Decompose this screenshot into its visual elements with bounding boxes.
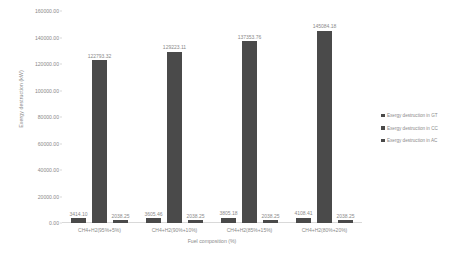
legend-swatch-icon: [381, 139, 385, 143]
bar[interactable]: [263, 220, 278, 223]
y-axis-tick-label: 140000.00: [35, 35, 59, 41]
bar[interactable]: [113, 220, 128, 223]
bar-group-bars: 4108.41145084.182038.25: [287, 11, 362, 223]
legend-swatch-icon: [381, 114, 385, 118]
chart-legend: Exergy destruction in GTExergy destructi…: [381, 113, 438, 143]
bar-group: 3605.46129223.112038.25CH4+H2(90%+10%): [137, 11, 212, 223]
plot-area: 160000.00140000.00120000.00100000.008000…: [62, 11, 362, 223]
y-axis-tick-label: 20000.00: [38, 194, 59, 200]
bar-value-label: 129223.11: [163, 44, 186, 50]
bar-group: 4108.41145084.182038.25CH4+H2(80%+20%): [287, 11, 362, 223]
y-axis-tick-label: 80000.00: [38, 114, 59, 120]
bar-value-label: 122793.32: [88, 53, 112, 59]
legend-label: Exergy destruction in GT: [387, 113, 438, 118]
bar-slot: 129223.11: [167, 11, 182, 223]
bar-group: 3414.10122793.322038.25CH4+H2(95%+5%): [62, 11, 137, 223]
y-axis-tick-label: 160000.00: [35, 8, 59, 14]
legend-swatch-icon: [381, 126, 385, 130]
bar-group-bars: 3805.18137353.762038.25: [212, 11, 287, 223]
x-axis-title: Fuel composition (%): [62, 238, 362, 244]
bar-value-label: 2038.25: [111, 213, 129, 219]
bar-slot: 3414.10: [71, 11, 86, 223]
y-axis-tick-label: 40000.00: [38, 167, 59, 173]
bar-slot: 137353.76: [242, 11, 257, 223]
bar-group: 3805.18137353.762038.25CH4+H2(85%+15%): [212, 11, 287, 223]
bar-group-bars: 3605.46129223.112038.25: [137, 11, 212, 223]
x-axis-category-label: CH4+H2(90%+10%): [152, 227, 198, 233]
bar[interactable]: [296, 218, 311, 223]
legend-item[interactable]: Exergy destruction in AC: [381, 138, 438, 143]
bar-value-label: 3605.46: [144, 211, 162, 217]
bar-slot: 2038.25: [188, 11, 203, 223]
legend-item[interactable]: Exergy destruction in GT: [381, 113, 438, 118]
bar-slot: 2038.25: [263, 11, 278, 223]
y-axis-tick-label: 100000.00: [35, 88, 59, 94]
bar-value-label: 3414.10: [69, 211, 87, 217]
y-axis-tick-label: 0.00: [49, 220, 59, 226]
legend-label: Exergy destruction in CC: [387, 126, 438, 131]
x-axis-category-label: CH4+H2(80%+20%): [302, 227, 348, 233]
bar[interactable]: [146, 218, 161, 223]
bar-value-label: 137353.76: [238, 34, 262, 40]
bar-chart: Exergy destruction (kW) 160000.00140000.…: [0, 0, 465, 253]
y-axis-tick-label: 60000.00: [38, 141, 59, 147]
bar[interactable]: [71, 218, 86, 223]
bar-value-label: 145084.18: [313, 23, 337, 29]
bar[interactable]: [92, 60, 107, 223]
bar-slot: 2038.25: [338, 11, 353, 223]
bar[interactable]: [338, 220, 353, 223]
y-axis-tick-label: 120000.00: [35, 61, 59, 67]
bar[interactable]: [242, 41, 257, 223]
legend-item[interactable]: Exergy destruction in CC: [381, 126, 438, 131]
bar[interactable]: [167, 52, 182, 223]
bar-slot: 3605.46: [146, 11, 161, 223]
bar-value-label: 2038.25: [186, 213, 204, 219]
bar-slot: 2038.25: [113, 11, 128, 223]
bar-slot: 4108.41: [296, 11, 311, 223]
x-axis-category-label: CH4+H2(95%+5%): [78, 227, 121, 233]
bar-slot: 3805.18: [221, 11, 236, 223]
bar-value-label: 4108.41: [294, 210, 312, 216]
bar[interactable]: [188, 220, 203, 223]
bar-group-bars: 3414.10122793.322038.25: [62, 11, 137, 223]
bar-slot: 145084.18: [317, 11, 332, 223]
bar-slot: 122793.32: [92, 11, 107, 223]
bar[interactable]: [317, 31, 332, 223]
bar[interactable]: [221, 218, 236, 223]
bar-value-label: 2038.25: [261, 213, 279, 219]
bar-value-label: 3805.18: [219, 210, 237, 216]
x-axis-category-label: CH4+H2(85%+15%): [227, 227, 273, 233]
bar-value-label: 2038.25: [336, 213, 354, 219]
legend-label: Exergy destruction in AC: [387, 138, 437, 143]
y-axis-title: Exergy destruction (kW): [18, 34, 24, 164]
